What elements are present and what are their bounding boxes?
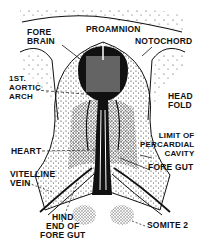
label-fore-gut: FORE GUT [148, 163, 194, 172]
label-pericardial-cavity: LIMIT OF PERCARDIAL CAVITY [140, 131, 194, 158]
label-vitelline-vein: VITELLINE VEIN [10, 170, 55, 188]
label-notochord: NOTOCHORD [135, 37, 192, 46]
label-heart: HEART [11, 147, 41, 156]
label-hind-end-fore-gut: HIND END OF FORE GUT [40, 213, 86, 240]
label-head-fold: HEAD FOLD [168, 92, 193, 110]
label-fore-brain: FORE BRAIN [27, 28, 55, 46]
label-somite-2: SOMITE 2 [147, 221, 188, 230]
embryo-diagram: PROAMNION FORE BRAIN NOTOCHORD 1ST. AORT… [0, 0, 205, 247]
label-aortic-arch: 1ST. AORTIC ARCH [9, 74, 41, 101]
label-proamnion: PROAMNION [86, 25, 141, 34]
